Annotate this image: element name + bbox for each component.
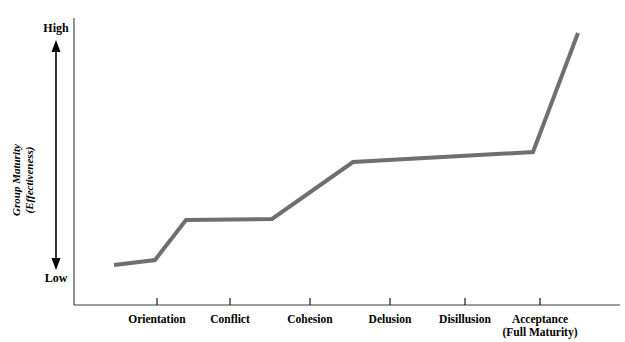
y-axis-title: Group Maturity (Effectiveness): [10, 105, 36, 255]
y-axis-high-label: High: [28, 21, 84, 36]
y-axis-title-line-2: (Effectiveness): [23, 105, 36, 255]
arrow-up-icon: [52, 40, 61, 52]
x-axis-label-line: Acceptance: [480, 313, 600, 326]
x-axis-label-line: (Full Maturity): [480, 326, 600, 339]
chart-figure: High Low Group Maturity (Effectiveness) …: [0, 0, 625, 342]
y-axis-title-line-1: Group Maturity: [10, 105, 23, 255]
y-axis-low-label: Low: [28, 271, 84, 286]
arrow-down-icon: [52, 258, 61, 270]
x-axis-label-acceptance: Acceptance (Full Maturity): [480, 313, 600, 339]
x-axis-ticks: [157, 298, 540, 305]
line-chart-canvas: [0, 0, 625, 342]
data-series-line: [114, 33, 578, 265]
